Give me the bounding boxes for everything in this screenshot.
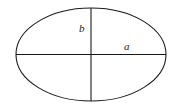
semi-minor-axis-label: b — [79, 23, 85, 34]
ellipse-graphic — [0, 0, 180, 108]
semi-major-axis-label: a — [124, 41, 130, 52]
ellipse-diagram: b a — [0, 0, 180, 108]
